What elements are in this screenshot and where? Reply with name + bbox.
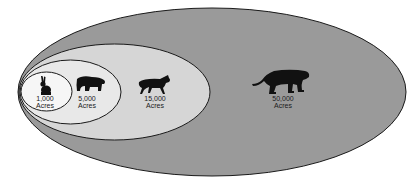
range-value-50000: 50,000: [272, 95, 294, 102]
range-unit-15000: Acres: [146, 102, 164, 109]
range-value-1000: 1,000: [36, 95, 54, 102]
home-range-diagram: 1,000 Acres 5,000 Acres 15,000 Acres 50,…: [0, 0, 419, 183]
range-value-5000: 5,000: [78, 95, 96, 102]
range-unit-5000: Acres: [78, 102, 96, 109]
range-unit-1000: Acres: [36, 102, 54, 109]
range-value-15000: 15,000: [144, 95, 166, 102]
range-unit-50000: Acres: [274, 102, 292, 109]
